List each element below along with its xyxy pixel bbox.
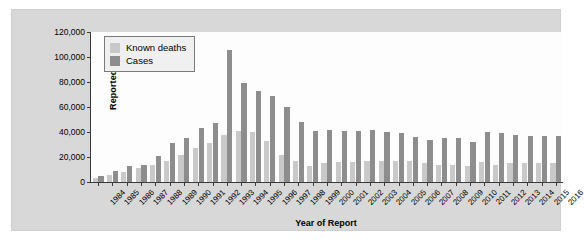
x-tick-mark — [184, 182, 185, 186]
bar-cases — [313, 131, 318, 182]
x-tick-mark — [98, 182, 99, 186]
bar-group — [534, 32, 548, 182]
bar-known-deaths — [550, 163, 555, 182]
bar-known-deaths — [121, 172, 126, 182]
x-tick-mark — [456, 182, 457, 186]
bar-group — [420, 32, 434, 182]
bar-known-deaths — [479, 162, 484, 182]
x-tick-mark — [284, 182, 285, 186]
bar-known-deaths — [178, 155, 183, 183]
bar-cases — [270, 96, 275, 182]
chart-legend: Known deathsCases — [104, 36, 195, 72]
bar-group — [248, 32, 262, 182]
x-tick-mark — [484, 182, 485, 186]
bar-group — [263, 32, 277, 182]
bar-known-deaths — [207, 143, 212, 182]
bar-cases — [556, 136, 561, 182]
bar-group — [291, 32, 305, 182]
bar-cases — [184, 138, 189, 182]
bar-cases — [384, 132, 389, 182]
x-tick-mark — [542, 182, 543, 186]
bar-cases — [356, 131, 361, 182]
x-tick-mark — [127, 182, 128, 186]
bar-group — [449, 32, 463, 182]
x-tick-mark — [298, 182, 299, 186]
bar-group — [334, 32, 348, 182]
legend-label: Known deaths — [126, 42, 186, 53]
y-tick-label: 80,000 — [23, 77, 91, 87]
bar-cases — [327, 130, 332, 183]
x-tick-mark — [513, 182, 514, 186]
bar-group — [406, 32, 420, 182]
x-tick-mark — [413, 182, 414, 186]
x-tick-mark — [270, 182, 271, 186]
x-tick-mark — [255, 182, 256, 186]
bar-cases — [98, 176, 103, 182]
legend-swatch-icon — [110, 43, 120, 53]
bar-cases — [542, 136, 547, 182]
y-tick-mark — [87, 182, 91, 183]
x-tick-mark — [213, 182, 214, 186]
bar-group — [306, 32, 320, 182]
x-tick-mark — [427, 182, 428, 186]
bar-known-deaths — [507, 163, 512, 182]
bar-known-deaths — [536, 163, 541, 182]
bar-cases — [399, 133, 404, 182]
bar-known-deaths — [321, 163, 326, 182]
bar-cases — [284, 107, 289, 182]
bar-known-deaths — [522, 163, 527, 182]
x-tick-mark — [527, 182, 528, 186]
bar-group — [463, 32, 477, 182]
x-tick-mark — [141, 182, 142, 186]
legend-swatch-icon — [110, 56, 120, 66]
bar-known-deaths — [393, 161, 398, 182]
bar-cases — [456, 138, 461, 182]
x-tick-mark — [341, 182, 342, 186]
bar-known-deaths — [150, 165, 155, 183]
bar-group — [320, 32, 334, 182]
bar-known-deaths — [293, 161, 298, 182]
bar-group — [491, 32, 505, 182]
bar-cases — [141, 165, 146, 182]
x-tick-mark — [499, 182, 500, 186]
legend-item[interactable]: Known deaths — [110, 41, 186, 54]
bar-cases — [499, 133, 504, 182]
bar-cases — [442, 138, 447, 182]
bar-cases — [199, 128, 204, 182]
x-tick-mark — [356, 182, 357, 186]
bar-group — [348, 32, 362, 182]
bar-known-deaths — [107, 175, 112, 183]
bar-cases — [241, 83, 246, 182]
bar-known-deaths — [136, 168, 141, 182]
x-tick-mark — [313, 182, 314, 186]
bar-known-deaths — [279, 155, 284, 183]
bar-known-deaths — [236, 131, 241, 182]
bar-group — [506, 32, 520, 182]
bar-cases — [513, 135, 518, 183]
x-tick-mark — [384, 182, 385, 186]
x-tick-mark — [155, 182, 156, 186]
bar-group — [377, 32, 391, 182]
bar-known-deaths — [379, 161, 384, 182]
bar-group — [477, 32, 491, 182]
bar-cases — [113, 171, 118, 182]
bar-cases — [256, 91, 261, 182]
y-tick-label: 60,000 — [23, 102, 91, 112]
bar-group — [391, 32, 405, 182]
bar-cases — [528, 136, 533, 182]
bar-cases — [170, 143, 175, 182]
bar-known-deaths — [350, 162, 355, 182]
bar-cases — [370, 130, 375, 183]
x-axis-label: Year of Report — [90, 218, 562, 228]
bar-group — [549, 32, 563, 182]
bar-known-deaths — [450, 165, 455, 183]
x-tick-mark — [399, 182, 400, 186]
chart-panel: Reported Cases 020,00040,00060,00080,000… — [11, 9, 561, 231]
legend-item[interactable]: Cases — [110, 54, 186, 67]
legend-label: Cases — [126, 55, 153, 66]
y-tick-label: 120,000 — [23, 27, 91, 37]
bar-known-deaths — [465, 166, 470, 182]
x-tick-mark — [327, 182, 328, 186]
y-tick-label: 0 — [23, 177, 91, 187]
